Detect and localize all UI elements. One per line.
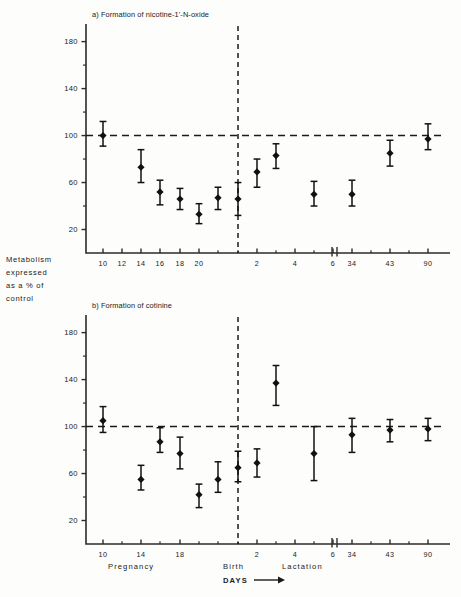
xtick-label: 12	[118, 259, 127, 268]
datapoint-5	[310, 427, 317, 481]
marker-diamond	[176, 195, 183, 202]
ytick-label: 60	[69, 178, 78, 187]
marker-diamond	[424, 135, 431, 142]
datapoint-14	[137, 465, 144, 490]
phase-label-pregnancy: Pregnancy	[108, 562, 154, 571]
datapoint-18	[176, 188, 183, 209]
panel-a-title: a) Formation of nicotine-1'-N-oxide	[92, 10, 209, 19]
y-axis-label-line-0: Metabolism	[6, 255, 52, 264]
datapoint-34	[348, 180, 355, 206]
phase-label-group: Pregnancy Birth Lactation DAYS	[108, 562, 323, 585]
y-axis-label-line-1: expressed	[6, 268, 47, 277]
xtick-label: 90	[424, 259, 433, 268]
datapoint-14	[137, 150, 144, 183]
panel-b-datapoints	[99, 365, 431, 507]
marker-diamond	[253, 459, 260, 466]
marker-diamond	[99, 417, 106, 424]
marker-diamond	[195, 211, 202, 218]
datapoint-1	[234, 451, 241, 482]
panel-a-ytick-group: 2060100140180	[64, 37, 86, 234]
marker-diamond	[386, 426, 393, 433]
datapoint-18	[176, 437, 183, 469]
xtick-label: 4	[293, 550, 298, 559]
panel-a-datapoints	[99, 121, 431, 223]
xtick-label: 6	[331, 259, 336, 268]
xtick-label: 43	[386, 550, 395, 559]
panel-b-xtick-group: 101418246344390	[99, 538, 433, 559]
xtick-label: 34	[348, 259, 357, 268]
days-arrow-icon	[254, 577, 285, 584]
panel-a: a) Formation of nicotine-1'-N-oxide 2060…	[64, 10, 450, 268]
panel-b: b) Formation of cotinine 2060100140180 1…	[64, 301, 450, 559]
xtick-label: 18	[176, 550, 185, 559]
xtick-label: 2	[255, 550, 260, 559]
panel-b-ytick-group: 2060100140180	[64, 328, 86, 525]
datapoint-21	[214, 187, 221, 209]
panel-b-title: b) Formation of cotinine	[92, 301, 172, 310]
datapoint-10	[99, 121, 106, 146]
datapoint-34	[348, 418, 355, 452]
xtick-label: 6	[331, 550, 336, 559]
marker-diamond	[348, 191, 355, 198]
xtick-label: 2	[255, 259, 260, 268]
xtick-label: 14	[137, 550, 146, 559]
marker-diamond	[99, 132, 106, 139]
datapoint-3	[272, 144, 279, 169]
datapoint-1	[234, 183, 241, 216]
xtick-label: 34	[348, 550, 357, 559]
marker-diamond	[310, 191, 317, 198]
marker-diamond	[310, 450, 317, 457]
phase-label-birth: Birth	[223, 562, 244, 571]
marker-diamond	[214, 194, 221, 201]
figure-root: a) Formation of nicotine-1'-N-oxide 2060…	[0, 0, 461, 597]
y-axis-label: Metabolism expressed as a % of control	[6, 255, 52, 303]
panel-b-axes	[86, 315, 450, 544]
axis-lines	[86, 315, 450, 544]
marker-diamond	[386, 150, 393, 157]
ytick-label: 140	[64, 84, 78, 93]
xtick-label: 16	[156, 259, 165, 268]
datapoint-90	[424, 418, 431, 440]
datapoint-20	[195, 204, 202, 224]
marker-diamond	[272, 380, 279, 387]
marker-diamond	[234, 195, 241, 202]
xtick-label: 10	[99, 550, 108, 559]
xtick-label: 90	[424, 550, 433, 559]
marker-diamond	[195, 491, 202, 498]
datapoint-43	[386, 140, 393, 166]
xtick-label: 43	[386, 259, 395, 268]
datapoint-16	[156, 180, 163, 205]
ytick-label: 100	[64, 131, 78, 140]
panel-a-axes	[86, 24, 450, 253]
marker-diamond	[156, 188, 163, 195]
datapoint-2	[253, 159, 260, 187]
ytick-label: 100	[64, 422, 78, 431]
marker-diamond	[156, 438, 163, 445]
datapoint-3	[272, 365, 279, 405]
datapoint-2	[253, 449, 260, 477]
ytick-label: 140	[64, 375, 78, 384]
phase-label-lactation: Lactation	[282, 562, 323, 571]
marker-diamond	[272, 152, 279, 159]
xtick-label: 14	[137, 259, 146, 268]
marker-diamond	[253, 168, 260, 175]
days-label: DAYS	[223, 576, 248, 585]
panel-a-xtick-group: 101214161820246344390	[99, 247, 433, 268]
datapoint-20	[195, 484, 202, 507]
datapoint-16	[156, 428, 163, 453]
marker-diamond	[234, 464, 241, 471]
datapoint-43	[386, 420, 393, 442]
marker-diamond	[214, 476, 221, 483]
ytick-label: 20	[69, 516, 78, 525]
y-axis-label-line-2: as a % of	[6, 281, 44, 290]
xtick-label: 10	[99, 259, 108, 268]
xtick-label: 18	[176, 259, 185, 268]
ytick-label: 180	[64, 37, 78, 46]
ytick-label: 60	[69, 469, 78, 478]
datapoint-10	[99, 407, 106, 433]
y-axis-label-line-3: control	[6, 294, 34, 303]
ytick-label: 20	[69, 225, 78, 234]
marker-diamond	[176, 450, 183, 457]
marker-diamond	[137, 164, 144, 171]
ytick-label: 180	[64, 328, 78, 337]
